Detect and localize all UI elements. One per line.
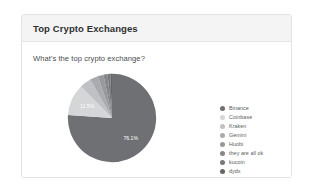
page-title: Top Crypto Exchanges xyxy=(33,23,138,34)
legend-color-swatch-icon xyxy=(220,106,225,111)
legend-item-label: they are all ok xyxy=(229,150,263,156)
legend-item-label: Kraken xyxy=(229,123,246,129)
legend-item[interactable]: Huobi xyxy=(220,140,292,149)
legend-item[interactable]: dydx xyxy=(220,167,292,176)
legend-item-label: kucoin xyxy=(229,159,245,165)
legend-item[interactable]: Coinbase xyxy=(220,113,292,122)
legend-item[interactable]: Binance xyxy=(220,104,292,113)
legend-item-label: Gemini xyxy=(229,132,246,138)
legend-item[interactable]: kucoin xyxy=(220,158,292,167)
legend-color-swatch-icon xyxy=(220,133,225,138)
legend-color-swatch-icon xyxy=(220,124,225,129)
legend-item-label: Huobi xyxy=(229,141,243,147)
chart-area: 76.1% 11.5% xyxy=(22,68,222,176)
chart-legend: BinanceCoinbaseKrakenGeminiHuobithey are… xyxy=(220,104,292,178)
legend-color-swatch-icon xyxy=(220,160,225,165)
legend-item[interactable]: Kraken xyxy=(220,122,292,131)
poll-question: What's the top crypto exchange? xyxy=(33,54,145,63)
pie-chart-svg: 76.1% 11.5% xyxy=(66,72,158,164)
legend-color-swatch-icon xyxy=(220,115,225,120)
card-header: Top Crypto Exchanges xyxy=(22,15,291,42)
legend-color-swatch-icon xyxy=(220,169,225,174)
legend-item-label: Coinbase xyxy=(229,114,252,120)
card-body: What's the top crypto exchange? 76.1% 11… xyxy=(22,42,291,177)
legend-item-label: dydx xyxy=(229,168,241,174)
pie-chart[interactable]: 76.1% 11.5% xyxy=(66,72,158,164)
legend-item[interactable]: they are all ok xyxy=(220,149,292,158)
pie-slice-label-coinbase: 11.5% xyxy=(80,103,95,109)
legend-item[interactable]: Gemini xyxy=(220,131,292,140)
legend-color-swatch-icon xyxy=(220,151,225,156)
poll-result-card: Top Crypto Exchanges What's the top cryp… xyxy=(21,14,292,178)
pie-slice-label-binance: 76.1% xyxy=(123,135,138,141)
legend-item-label: Binance xyxy=(229,105,249,111)
legend-color-swatch-icon xyxy=(220,142,225,147)
